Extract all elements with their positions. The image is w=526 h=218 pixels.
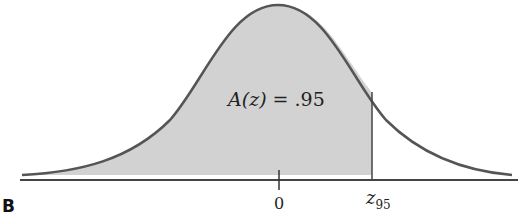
z-subscript: 95: [375, 198, 390, 212]
area-label-value: .95: [295, 88, 325, 110]
figure-letter: B: [2, 196, 15, 216]
area-label: A(z) = .95: [228, 88, 325, 110]
zero-tick-label: 0: [274, 194, 284, 213]
z95-label: z95: [366, 187, 391, 212]
area-label-prefix: A(z) =: [228, 88, 295, 110]
